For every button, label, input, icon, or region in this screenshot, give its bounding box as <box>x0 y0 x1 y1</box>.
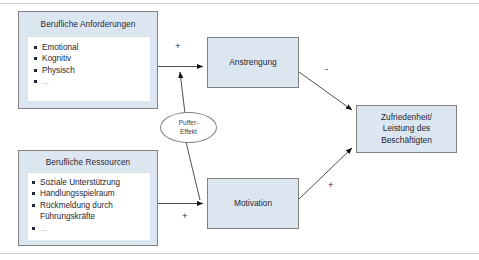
list-item: Physisch <box>34 65 150 76</box>
sign-ressourcen-motivation: + <box>182 211 188 221</box>
edge-puffer-moderator-down <box>186 142 200 200</box>
node-outcome[interactable]: Zufriedenheit/ Leistung des Beschäftigte… <box>356 105 457 153</box>
frame-bottom-divider <box>0 253 479 254</box>
frame-top-divider <box>0 3 479 4</box>
list-item: Rückmeldung durch Führungskräfte <box>32 200 150 223</box>
list-item: ... <box>34 76 150 87</box>
group-title-ressourcen: Berufliche Ressourcen <box>19 158 157 167</box>
list-item: ... <box>32 223 150 234</box>
list-item: Kognitiv <box>34 53 150 64</box>
group-title-anforderungen: Berufliche Anforderungen <box>19 20 157 29</box>
sign-motivation-outcome: + <box>328 180 334 190</box>
bullet-list-ressourcen: Soziale Unterstützung Handlungsspielraum… <box>32 177 150 234</box>
group-content-ressourcen: Soziale Unterstützung Handlungsspielraum… <box>28 173 150 240</box>
group-box-anforderungen[interactable]: Berufliche Anforderungen Emotional Kogni… <box>18 11 158 109</box>
group-box-ressourcen[interactable]: Berufliche Ressourcen Soziale Unterstütz… <box>18 150 158 246</box>
edge-motivation-outcome <box>299 148 352 199</box>
node-motivation[interactable]: Motivation <box>207 178 299 229</box>
list-item: Emotional <box>34 42 150 53</box>
diagram-canvas: Berufliche Anforderungen Emotional Kogni… <box>0 0 479 260</box>
sign-anforderungen-anstrengung: + <box>175 41 181 51</box>
sign-anstrengung-outcome: - <box>325 64 328 74</box>
moderator-puffer-effekt[interactable]: Puffer- Effekt <box>160 112 217 143</box>
node-anstrengung[interactable]: Anstrengung <box>207 37 299 88</box>
bullet-list-anforderungen: Emotional Kognitiv Physisch ... <box>34 42 150 88</box>
edge-anstrengung-outcome <box>299 72 352 110</box>
group-content-anforderungen: Emotional Kognitiv Physisch ... <box>28 37 150 101</box>
list-item: Handlungsspielraum <box>32 188 150 199</box>
list-item: Soziale Unterstützung <box>32 177 150 188</box>
